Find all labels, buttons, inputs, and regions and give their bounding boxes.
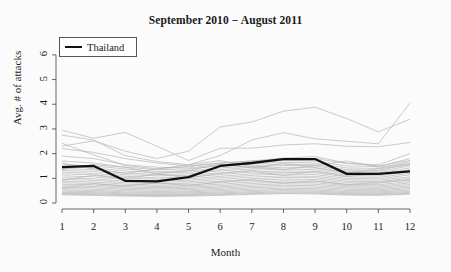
chart-title: September 2010 − August 2011	[0, 14, 451, 26]
x-tick-label: 11	[368, 221, 388, 232]
series-line	[62, 103, 410, 165]
x-tick-label: 10	[337, 221, 357, 232]
x-tick-label: 5	[179, 221, 199, 232]
y-tick-label: 6	[38, 46, 49, 60]
chart-figure: September 2010 − August 2011 Avg. # of a…	[0, 0, 451, 272]
x-tick-label: 4	[147, 221, 167, 232]
y-tick-label: 2	[38, 145, 49, 159]
x-tick-label: 6	[210, 221, 230, 232]
x-tick-label: 7	[242, 221, 262, 232]
y-tick-label: 4	[38, 96, 49, 110]
legend: Thailand	[59, 37, 137, 57]
x-tick-label: 9	[305, 221, 325, 232]
x-tick-label: 2	[84, 221, 104, 232]
y-axis-label: Avg. # of attacks	[11, 28, 23, 148]
legend-line-swatch	[65, 46, 82, 48]
legend-label-thailand: Thailand	[87, 42, 124, 53]
x-tick-label: 3	[115, 221, 135, 232]
series-line	[62, 107, 410, 158]
x-tick-label: 8	[273, 221, 293, 232]
x-tick-label: 12	[400, 221, 420, 232]
y-tick-label: 5	[38, 71, 49, 85]
x-axis-label: Month	[0, 246, 451, 258]
series-canvas	[62, 45, 410, 203]
y-tick-label: 3	[38, 120, 49, 134]
y-tick-label: 1	[38, 170, 49, 184]
x-tick-label: 1	[52, 221, 72, 232]
y-tick-label: 0	[38, 195, 49, 209]
plot-area	[62, 45, 410, 203]
